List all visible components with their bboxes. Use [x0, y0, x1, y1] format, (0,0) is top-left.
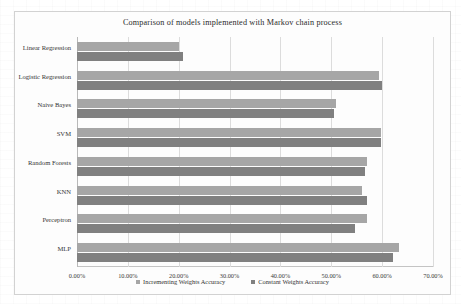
category-label: Logistic Regression — [18, 73, 71, 80]
bar — [77, 214, 367, 223]
legend-swatch-icon — [251, 280, 255, 284]
category-label: Perceptron — [42, 216, 71, 223]
category-label: Random Forests — [28, 159, 71, 166]
bar-group: KNN — [77, 186, 433, 205]
legend-item[interactable]: Incrementing Weights Accuracy — [136, 278, 225, 285]
legend-label: Constant Weights Accuracy — [258, 278, 329, 285]
bar — [77, 109, 334, 118]
bar — [77, 196, 367, 205]
chart-title: Comparison of models implemented with Ma… — [15, 18, 450, 27]
bar-group: Perceptron — [77, 214, 433, 233]
x-axis-baseline — [77, 266, 433, 267]
category-label: Linear Regression — [23, 44, 71, 51]
legend-label: Incrementing Weights Accuracy — [143, 278, 225, 285]
category-label: KNN — [57, 188, 71, 195]
bar — [77, 243, 399, 252]
legend-item[interactable]: Constant Weights Accuracy — [251, 278, 329, 285]
bar — [77, 52, 183, 61]
bar-group: SVM — [77, 128, 433, 147]
legend-swatch-icon — [136, 280, 140, 284]
bar-group: Linear Regression — [77, 42, 433, 61]
category-label: Naive Bayes — [37, 101, 71, 108]
bar — [77, 99, 336, 108]
category-label: MLP — [57, 245, 71, 252]
bar — [77, 167, 365, 176]
bar-group: Naive Bayes — [77, 99, 433, 118]
chart-legend: Incrementing Weights AccuracyConstant We… — [15, 278, 450, 285]
chart-container: Comparison of models implemented with Ma… — [14, 11, 451, 295]
bar-group: MLP — [77, 243, 433, 262]
bar — [77, 138, 381, 147]
plot-area: 0.00%10.00%20.00%30.00%40.00%50.00%60.00… — [77, 37, 433, 267]
bar — [77, 42, 179, 51]
bar — [77, 81, 382, 90]
bar — [77, 253, 393, 262]
bar — [77, 128, 381, 137]
bar-group: Random Forests — [77, 157, 433, 176]
bar — [77, 157, 367, 166]
category-label: SVM — [57, 130, 71, 137]
bar — [77, 186, 362, 195]
bar — [77, 71, 379, 80]
gridline — [433, 37, 434, 267]
bar — [77, 224, 355, 233]
bar-group: Logistic Regression — [77, 71, 433, 90]
